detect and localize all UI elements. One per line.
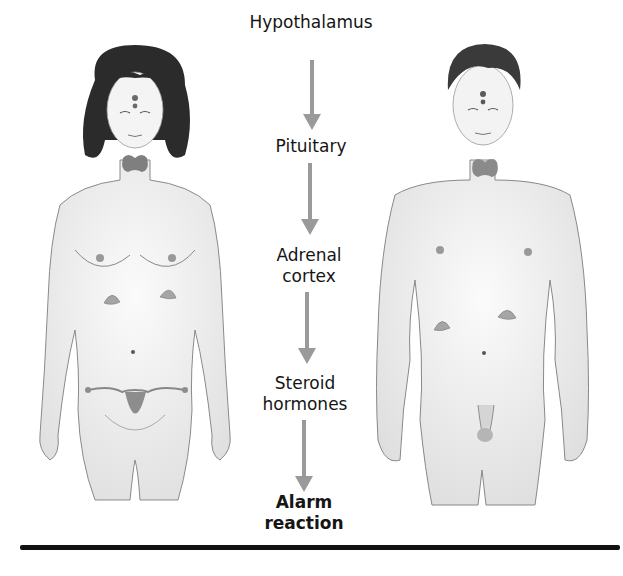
bottom-rule-divider (20, 545, 620, 550)
flow-step-hypothalamus: Hypothalamus (249, 12, 372, 33)
down-arrow-icon (292, 420, 316, 494)
flow-step-adrenal-cortex: Adrenal cortex (276, 245, 341, 287)
cropped-header-fragment (500, 0, 560, 4)
female-body (40, 160, 231, 500)
male-body (377, 160, 589, 505)
male-figure-illustration (360, 30, 605, 510)
hypothalamus-gland-marker (132, 95, 138, 101)
face (453, 65, 513, 145)
down-arrow-icon (298, 163, 322, 237)
female-figure-illustration (20, 40, 250, 505)
flow-step-steroid-hormones: Steroid hormones (263, 373, 348, 415)
flow-step-alarm-reaction: Alarm reaction (264, 492, 343, 534)
down-arrow-icon (300, 60, 324, 132)
pituitary-gland-marker (133, 104, 138, 109)
thyroid-gland (122, 155, 148, 172)
flow-step-pituitary: Pituitary (276, 136, 347, 157)
hypothalamus-gland-marker (480, 91, 486, 97)
pituitary-gland-marker (481, 100, 486, 105)
down-arrow-icon (295, 292, 319, 366)
